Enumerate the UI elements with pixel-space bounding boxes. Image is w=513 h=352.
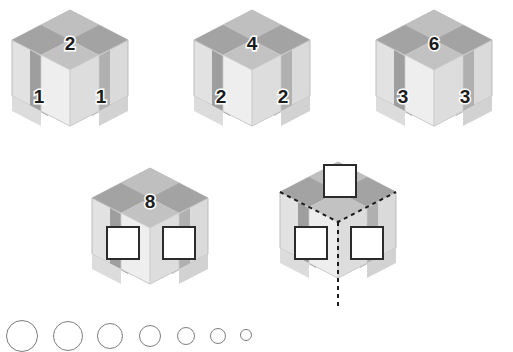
- cube-4-right-answer-box[interactable]: [162, 226, 196, 260]
- bottom-circle-5: [177, 327, 195, 345]
- cube-2-right-label: 2: [272, 87, 294, 106]
- cube-2-top-label: 4: [241, 34, 263, 53]
- cube-3-right-label: 3: [454, 87, 476, 106]
- cube-2-left-label: 2: [210, 87, 232, 106]
- cube-1-right-value: 1: [96, 86, 107, 107]
- cube-3-left-value: 3: [398, 86, 409, 107]
- cube-1-top-value: 2: [65, 33, 76, 54]
- cube-2-left-value: 2: [216, 86, 227, 107]
- cube-4-top-label: 8: [139, 192, 161, 211]
- cube-1-left-value: 1: [34, 86, 45, 107]
- cube-3-right-value: 3: [460, 86, 471, 107]
- cube-1: 2 1 1: [8, 8, 132, 156]
- cube-3: 6 3 3: [372, 8, 496, 156]
- cube-3-left-label: 3: [392, 87, 414, 106]
- cube-1-right-label: 1: [90, 87, 112, 106]
- cube-5: [276, 160, 400, 308]
- cube-2-right-value: 2: [278, 86, 289, 107]
- cube-4-top-value: 8: [145, 191, 156, 212]
- bottom-circle-row: [0, 306, 513, 326]
- cube-2: 4 2 2: [190, 8, 314, 156]
- cube-5-right-answer-box[interactable]: [350, 226, 384, 260]
- cube-4: 8: [88, 166, 212, 314]
- cube-1-left-label: 1: [28, 87, 50, 106]
- cube-3-top-label: 6: [423, 34, 445, 53]
- cube-1-graphic: [8, 8, 132, 156]
- cube-4-left-answer-box[interactable]: [106, 226, 140, 260]
- bottom-circle-6: [210, 328, 226, 344]
- bottom-circle-2: [53, 321, 83, 351]
- bottom-circle-7: [240, 329, 252, 341]
- cube-3-graphic: [372, 8, 496, 156]
- bottom-circle-3: [97, 323, 123, 349]
- cube-5-top-answer-box[interactable]: [323, 164, 357, 198]
- cube-3-top-value: 6: [429, 33, 440, 54]
- cube-2-graphic: [190, 8, 314, 156]
- cube-2-top-value: 4: [247, 33, 258, 54]
- cube-1-top-label: 2: [59, 34, 81, 53]
- bottom-circle-1: [6, 320, 38, 352]
- cube-5-left-answer-box[interactable]: [294, 226, 328, 260]
- bottom-circle-4: [139, 325, 161, 347]
